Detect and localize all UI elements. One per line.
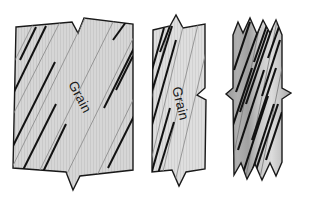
specimen-3 [226,14,292,188]
wood-grain-figure: Grain Gr [0,0,309,199]
figure-root: Grain Gr [0,0,309,199]
specimen-3-body [226,18,291,180]
